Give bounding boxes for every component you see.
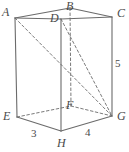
vertex-label-c: C [117,7,125,19]
vertex-label-a: A [2,6,9,18]
edge-A-E [15,18,17,117]
vertex-label-g: G [117,110,126,122]
edge-F-G [71,106,112,116]
edge-B-F [70,8,71,106]
edge-B-C [70,8,112,17]
prism-drawing [0,0,129,152]
vertex-label-f: F [66,99,73,111]
vertex-label-e: E [3,110,10,122]
vertex-label-b: B [66,0,73,12]
edge-EH-length: 3 [31,128,37,139]
edge-A-B [15,8,70,18]
vertex-label-d: D [50,12,59,24]
edge-CG-length: 5 [115,58,121,69]
edge-D-C [61,17,112,19]
edge-E-H [17,117,61,131]
vertex-label-h: H [57,137,66,149]
edge-HG-length: 4 [85,127,91,138]
diagonal-A-G [15,18,112,116]
edge-E-F [17,106,71,117]
geometry-figure: ABCDEFGH345 [0,0,129,152]
